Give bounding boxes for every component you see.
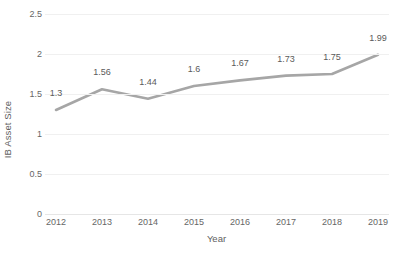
x-axis-title: Year (44, 233, 389, 244)
plot-area (45, 14, 389, 214)
gridline (45, 134, 389, 135)
x-tick-label: 2018 (322, 217, 342, 227)
x-tick-label: 2013 (92, 217, 112, 227)
x-tick-label: 2016 (230, 217, 250, 227)
data-label: 1.3 (50, 88, 63, 98)
series-line (45, 14, 389, 214)
gridline (45, 174, 389, 175)
data-label: 1.6 (188, 64, 201, 74)
y-tick-label: 2.5 (18, 9, 42, 19)
y-tick-label: 1 (18, 129, 42, 139)
y-axis-title: IB Asset Size (0, 0, 14, 259)
data-label: 1.44 (139, 77, 157, 87)
data-label: 1.56 (93, 67, 111, 77)
x-tick-label: 2017 (276, 217, 296, 227)
y-tick-label: 0.5 (18, 169, 42, 179)
x-tick-label: 2015 (184, 217, 204, 227)
gridline (45, 214, 389, 215)
y-tick-label: 0 (18, 209, 42, 219)
x-axis-tick-labels: 20122013201420152016201720182019 (45, 217, 389, 231)
y-tick-label: 1.5 (18, 89, 42, 99)
data-label: 1.67 (231, 58, 249, 68)
data-label: 1.75 (323, 52, 341, 62)
line-chart: IB Asset Size 00.511.522.5 2012201320142… (0, 0, 417, 259)
x-tick-label: 2012 (46, 217, 66, 227)
gridline (45, 94, 389, 95)
data-label: 1.73 (277, 54, 295, 64)
x-tick-label: 2019 (368, 217, 388, 227)
y-tick-label: 2 (18, 49, 42, 59)
gridline (45, 14, 389, 15)
x-tick-label: 2014 (138, 217, 158, 227)
data-label: 1.99 (369, 33, 387, 43)
y-axis-tick-labels: 00.511.522.5 (16, 0, 42, 259)
